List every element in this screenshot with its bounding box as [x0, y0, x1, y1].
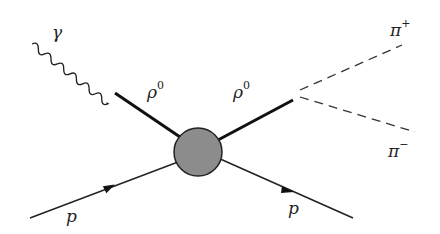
diagram-lines: [0, 0, 440, 234]
label-pi-plus: π+: [390, 20, 410, 39]
label-photon: γ: [52, 24, 62, 41]
pi-minus-line: [300, 97, 415, 132]
photon-line: [24, 42, 115, 106]
rho-out-line: [218, 100, 293, 140]
label-rho-out: ρ0: [233, 82, 250, 101]
feynman-diagram: γ ρ0 ρ0 π+ π− p p: [0, 0, 440, 234]
proton-in-line: [30, 162, 178, 218]
arrow-icon: [281, 186, 294, 193]
label-rho-in: ρ0: [147, 82, 164, 101]
label-proton-out: p: [288, 200, 299, 217]
arrow-icon: [103, 185, 116, 194]
pi-plus-line: [300, 45, 402, 90]
interaction-vertex-blob: [174, 128, 222, 176]
label-pi-minus: π−: [388, 141, 408, 160]
label-proton-in: p: [66, 208, 77, 225]
